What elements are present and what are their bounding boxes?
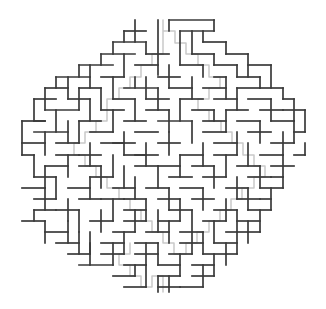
maze-figure: Diamond Maze Puzzle Octagonal diamond-sh… <box>0 0 326 309</box>
maze-canvas <box>0 0 326 309</box>
